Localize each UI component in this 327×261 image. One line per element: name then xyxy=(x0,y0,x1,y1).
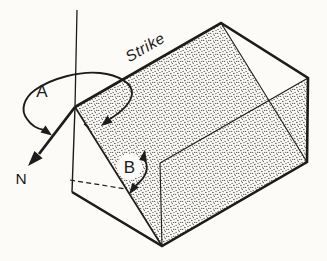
angle-b-label: B xyxy=(124,158,135,177)
angle-a-label: A xyxy=(36,82,48,101)
diagram-canvas: Strike A B N xyxy=(0,0,327,261)
strike-dip-block-diagram: Strike A B N xyxy=(0,0,327,261)
north-label: N xyxy=(15,170,26,187)
